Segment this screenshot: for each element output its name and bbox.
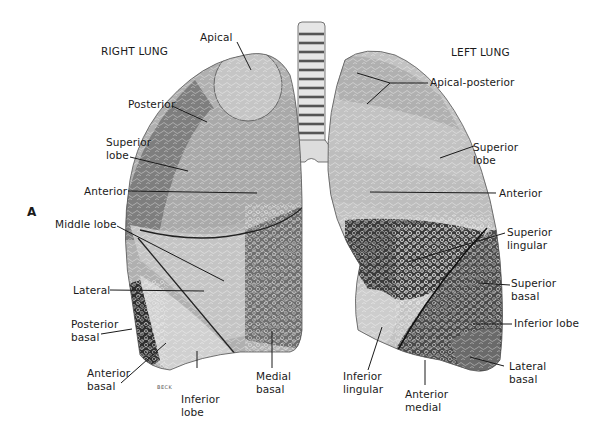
lung-segments-diagram: RIGHT LUNG LEFT LUNG A BECK Apical Poste…	[0, 0, 597, 438]
artist-signature: BECK	[157, 381, 172, 394]
label-right-inferior-lobe: Inferior lobe	[181, 393, 220, 418]
label-right-superior-lobe: Superior lobe	[106, 136, 151, 161]
label-left-superior-lobe: Superior lobe	[473, 141, 518, 166]
right-lung-title: RIGHT LUNG	[101, 45, 168, 58]
label-right-posterior-basal: Posterior basal	[71, 318, 118, 343]
panel-letter: A	[27, 206, 36, 219]
label-left-superior-basal: Superior basal	[511, 277, 556, 302]
label-left-inferior-lingular: Inferior lingular	[343, 370, 383, 395]
label-right-anterior: Anterior	[84, 185, 127, 198]
label-left-inferior-lobe: Inferior lobe	[514, 317, 579, 330]
label-left-superior-lingular: Superior lingular	[507, 226, 552, 251]
left-lung	[320, 40, 520, 380]
label-left-lateral-basal: Lateral basal	[509, 360, 546, 385]
label-right-posterior: Posterior	[128, 98, 175, 111]
label-right-lateral: Lateral	[73, 284, 110, 297]
label-right-medial-basal: Medial basal	[256, 370, 291, 395]
label-right-anterior-basal: Anterior basal	[87, 367, 130, 392]
label-right-apical: Apical	[200, 31, 233, 44]
label-left-apical-posterior: Apical-posterior	[430, 76, 514, 89]
label-left-anterior-medial: Anterior medial	[405, 388, 448, 413]
label-right-middle-lobe: Middle lobe	[55, 218, 117, 231]
right-lung	[100, 40, 320, 375]
left-lung-title: LEFT LUNG	[451, 46, 510, 59]
label-left-anterior: Anterior	[499, 187, 542, 200]
